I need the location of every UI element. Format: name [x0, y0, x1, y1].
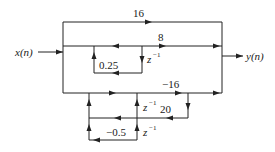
- arrow-icon: [213, 44, 220, 49]
- output-node: y(n): [222, 50, 264, 63]
- delay-z: z: [146, 53, 152, 65]
- arrow-icon: [114, 116, 121, 121]
- delay-z: z: [142, 101, 148, 113]
- arrow-icon: [135, 124, 140, 131]
- arrow-icon: [175, 91, 182, 96]
- gain-16: 16: [133, 7, 145, 19]
- arrow-icon: [112, 71, 119, 76]
- arrow-icon: [159, 44, 166, 49]
- arrow-icon: [140, 56, 145, 63]
- gain-8: 8: [158, 31, 164, 43]
- branch-middle-8: 8: [63, 31, 222, 49]
- arrow-icon: [56, 50, 63, 55]
- arrow-icon: [109, 91, 116, 96]
- arrow-icon: [135, 99, 140, 106]
- arrow-icon: [236, 54, 243, 59]
- arrow-icon: [112, 44, 119, 49]
- signal-flow-diagram: x(n) 16 8 0.25 z −1 y(n): [0, 0, 275, 152]
- delay-exp: −1: [153, 51, 161, 59]
- gain-minus16: −16: [162, 78, 180, 90]
- input-node: x(n): [14, 46, 63, 59]
- branch-bottom-minus16: −16: [63, 78, 222, 96]
- arrow-icon: [87, 99, 92, 106]
- lower-delay-chain: z −1 20 z −1 −0.5: [87, 93, 191, 143]
- branch-top-16: 16: [63, 7, 222, 25]
- arrow-icon: [186, 103, 191, 110]
- upper-feedback-loop: 0.25 z −1: [92, 46, 161, 76]
- arrow-icon: [93, 138, 100, 143]
- input-label: x(n): [14, 46, 33, 59]
- gain-20: 20: [160, 103, 172, 115]
- gain-minus0.5: −0.5: [106, 126, 126, 138]
- gain-0.25: 0.25: [99, 59, 119, 71]
- delay-exp: −1: [149, 99, 157, 107]
- output-label: y(n): [245, 50, 264, 63]
- arrow-icon: [145, 20, 152, 25]
- arrow-icon: [213, 91, 220, 96]
- arrow-icon: [87, 124, 92, 131]
- delay-z: z: [142, 126, 148, 138]
- delay-exp: −1: [149, 124, 157, 132]
- arrow-icon: [92, 52, 97, 59]
- arrow-icon: [166, 116, 173, 121]
